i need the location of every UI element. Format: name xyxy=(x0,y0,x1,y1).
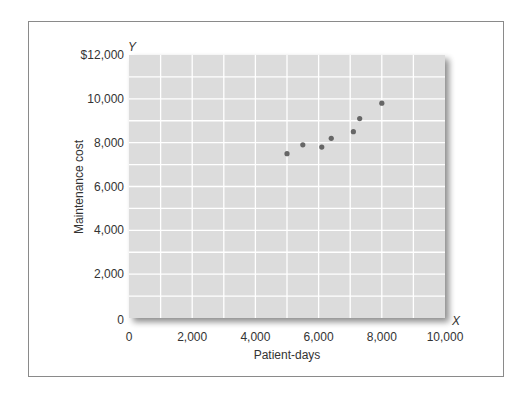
x-tick-label: 10,000 xyxy=(427,330,464,344)
y-tick-label: 8,000 xyxy=(94,136,124,150)
data-point xyxy=(357,116,362,121)
data-point xyxy=(284,151,289,156)
y-tick-label: 2,000 xyxy=(94,267,124,281)
data-point xyxy=(379,101,384,106)
x-axis-title: Patient-days xyxy=(254,348,321,362)
y-tick-label: 4,000 xyxy=(94,223,124,237)
x-axis-letter: X xyxy=(451,314,461,328)
x-tick-label: 6,000 xyxy=(304,330,334,344)
x-tick-label: 2,000 xyxy=(177,330,207,344)
x-tick-label: 4,000 xyxy=(240,330,270,344)
scatter-chart: 02,0004,0006,0008,00010,000 02,0004,0006… xyxy=(0,0,532,399)
y-tick-labels: 02,0004,0006,0008,00010,000$12,000 xyxy=(81,48,125,327)
x-tick-labels: 02,0004,0006,0008,00010,000 xyxy=(126,330,464,344)
y-axis-title: Maintenance cost xyxy=(72,139,86,234)
y-tick-label: $12,000 xyxy=(81,48,125,62)
y-tick-label: 10,000 xyxy=(87,92,124,106)
y-axis-letter: Y xyxy=(128,40,137,54)
data-point xyxy=(300,142,305,147)
y-tick-label: 0 xyxy=(117,313,124,327)
data-point xyxy=(319,144,324,149)
data-point xyxy=(351,129,356,134)
x-tick-label: 0 xyxy=(126,330,133,344)
x-tick-label: 8,000 xyxy=(367,330,397,344)
data-point xyxy=(329,136,334,141)
y-tick-label: 6,000 xyxy=(94,180,124,194)
